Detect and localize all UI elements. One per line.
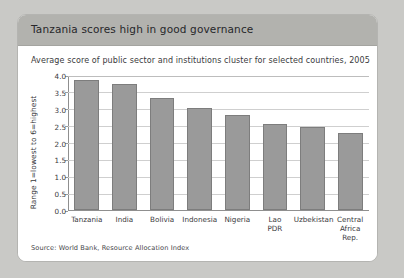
page-root: Tanzania scores high in good governance … [0, 0, 404, 278]
bar [112, 84, 137, 210]
y-axis-tick-label: 0.0 [42, 207, 66, 216]
page-title: Tanzania scores high in good governance [31, 23, 253, 35]
bar-chart: Range 1=lowest to 6=highest 0.00.51.01.5… [31, 76, 369, 261]
card-header: Tanzania scores high in good governance [18, 15, 377, 46]
x-axis-tick-label: India [106, 215, 144, 224]
bar [150, 98, 175, 210]
bar [300, 127, 325, 210]
y-axis-tick-label: 0.5 [42, 190, 66, 199]
x-axis-tick-label: Nigeria [219, 215, 257, 224]
y-axis-tick-label: 2.0 [42, 139, 66, 148]
x-axis-tick-label: Uzbekistan [294, 215, 332, 224]
x-axis-tick-label: Indonesia [181, 215, 219, 224]
x-axis-tick-label: Lao PDR [256, 215, 294, 233]
x-axis-tick-label: Central Africa Rep. [331, 215, 369, 243]
bar [225, 115, 250, 210]
card-body: Average score of public sector and insti… [18, 46, 377, 261]
y-axis-tick-label: 1.0 [42, 173, 66, 182]
plot-area: 0.00.51.01.52.02.53.03.54.0 [68, 76, 369, 211]
chart-subtitle: Average score of public sector and insti… [31, 56, 370, 65]
y-axis-tick-label: 4.0 [42, 72, 66, 81]
bar [187, 108, 212, 210]
y-axis-tick-label: 3.5 [42, 88, 66, 97]
y-axis-tick-label: 2.5 [42, 122, 66, 131]
x-axis-line [68, 210, 369, 211]
bar [338, 133, 363, 210]
y-axis-tick-label: 3.0 [42, 105, 66, 114]
chart-card: Tanzania scores high in good governance … [17, 14, 378, 262]
source-note: Source: World Bank, Resource Allocation … [31, 244, 189, 252]
y-axis-title: Range 1=lowest to 6=highest [27, 76, 41, 228]
gridline [68, 76, 369, 77]
y-axis-tick-label: 1.5 [42, 156, 66, 165]
bar [263, 124, 288, 210]
x-axis-tick-label: Bolivia [143, 215, 181, 224]
bar [74, 80, 99, 210]
x-axis-tick-label: Tanzania [68, 215, 106, 224]
y-axis-title-text: Range 1=lowest to 6=highest [30, 95, 39, 209]
